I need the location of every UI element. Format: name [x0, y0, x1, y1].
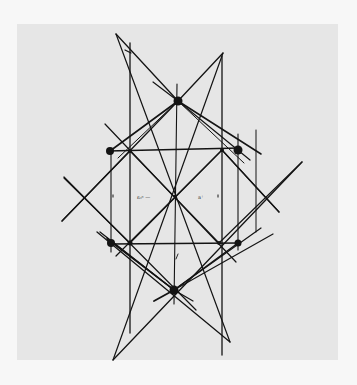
node-inner-top-left: [128, 149, 132, 153]
node-outer-bottom-right: [235, 240, 242, 247]
geometric-diagram: ε₀ⁿ — a⁺: [0, 0, 357, 385]
node-outer-bottom-left: [107, 239, 115, 247]
scan-panel: [17, 24, 338, 360]
node-outer-top-right: [234, 146, 243, 155]
node-inner-bottom-left: [128, 241, 133, 246]
node-inner-bottom-right: [217, 241, 221, 245]
node-center: [174, 195, 176, 197]
node-top: [174, 97, 183, 106]
node-inner-top-right: [220, 148, 224, 152]
node-outer-top-left: [106, 147, 114, 155]
label-left: ε₀ⁿ —: [137, 194, 150, 200]
node-bottom: [170, 286, 179, 295]
label-right: a⁺: [198, 194, 204, 200]
